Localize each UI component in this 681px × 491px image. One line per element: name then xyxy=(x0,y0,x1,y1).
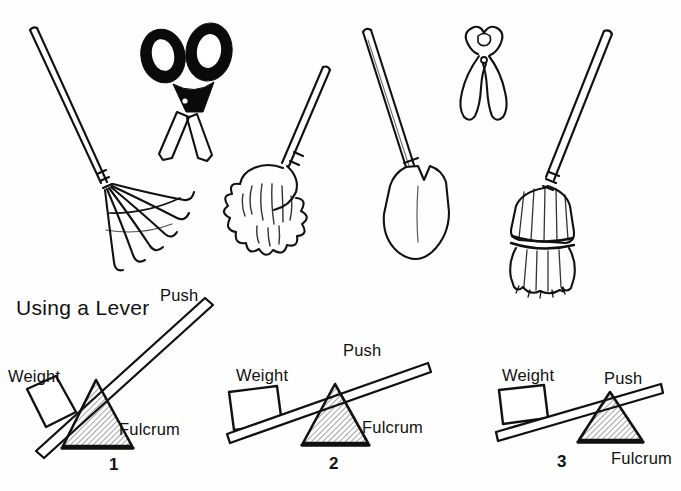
illustration-page: Using a Lever Push Weight Fulcrum 1 Push… xyxy=(0,0,681,491)
lever-3-weight-label: Weight xyxy=(502,366,554,385)
page-title: Using a Lever xyxy=(16,296,149,320)
lever-3-push-label: Push xyxy=(604,369,642,388)
lever-1-push-label: Push xyxy=(160,286,198,305)
lever-3-number: 3 xyxy=(557,452,567,472)
lever-1-number: 1 xyxy=(109,455,119,475)
lever-3-fulcrum-label: Fulcrum xyxy=(611,449,672,468)
lever-1-fulcrum-label: Fulcrum xyxy=(119,420,180,439)
lever-diagram-3 xyxy=(496,384,663,442)
lever-2-push-label: Push xyxy=(343,341,381,360)
lever-2-weight-label: Weight xyxy=(236,366,288,385)
lever-2-number: 2 xyxy=(329,454,339,474)
lever-1-weight-label: Weight xyxy=(8,367,60,386)
lever-2-fulcrum-label: Fulcrum xyxy=(362,418,423,437)
lever-diagrams-layer xyxy=(0,0,681,491)
